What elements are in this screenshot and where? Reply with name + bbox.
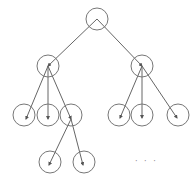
tree-diagram: · · · [0, 0, 195, 182]
tree-edge [26, 66, 48, 119]
tree-edge [48, 66, 71, 119]
tree-node-l2-a [13, 104, 35, 126]
tree-node-l2-c [60, 104, 82, 126]
tree-node-l3-b [73, 151, 95, 173]
tree-edge [48, 19, 97, 66]
nodes [13, 8, 189, 173]
edges [26, 19, 177, 165]
tree-edge [120, 66, 142, 118]
tree-edge [142, 66, 177, 118]
tree-node-l2-d [108, 104, 130, 126]
tree-node-l2-f [167, 104, 189, 126]
tree-edge [97, 19, 142, 66]
ellipsis-more-nodes: · · · [135, 157, 158, 166]
